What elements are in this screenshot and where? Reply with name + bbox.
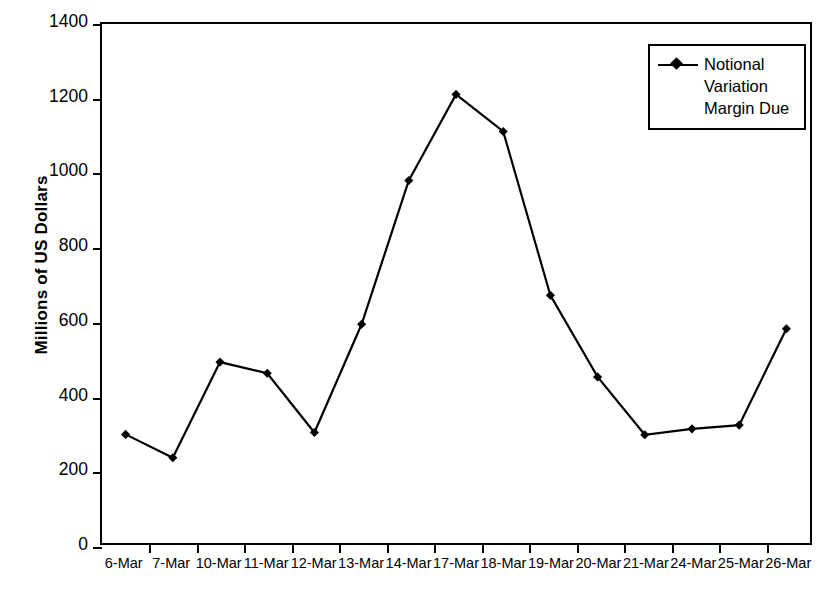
y-axis-tick-mark (93, 323, 102, 325)
y-axis-tick-mark (93, 99, 102, 101)
x-axis-tick-mark (149, 543, 151, 553)
y-axis-tick-label: 200 (30, 462, 88, 480)
x-axis-tick-mark (577, 543, 579, 553)
x-axis-tick-mark (292, 543, 294, 553)
x-axis-tick-label: 26-Mar (753, 556, 823, 571)
x-axis-tick-mark (244, 543, 246, 553)
x-axis-tick-mark (767, 543, 769, 553)
data-point-marker (546, 291, 555, 300)
x-axis-tick-mark (529, 543, 531, 553)
x-axis-tick-mark (482, 543, 484, 553)
legend-line-diamond-icon (658, 55, 698, 75)
data-point-marker (687, 424, 696, 433)
x-axis-tick-mark (339, 543, 341, 553)
x-axis-tick-mark (624, 543, 626, 553)
legend-entry-label: Notional Variation Margin Due (704, 54, 789, 119)
x-axis-tick-labels: 6-Mar7-Mar10-Mar11-Mar12-Mar13-Mar14-Mar… (100, 556, 812, 586)
x-axis-tick-mark (672, 543, 674, 553)
y-axis-tick-mark (93, 398, 102, 400)
data-point-marker (404, 176, 413, 185)
y-axis-tick-label: 400 (30, 387, 88, 405)
y-axis-tick-mark (93, 24, 102, 26)
series-markers (121, 90, 791, 462)
series-line (126, 94, 787, 457)
y-axis-tick-label: 1000 (30, 163, 88, 181)
x-axis-tick-mark (387, 543, 389, 553)
line-chart: Millions of US Dollars 02004006008001000… (0, 0, 828, 590)
y-axis-tick-label: 0 (30, 536, 88, 554)
x-axis-tick-mark (434, 543, 436, 553)
chart-legend: Notional Variation Margin Due (648, 44, 806, 130)
data-point-marker (357, 320, 366, 329)
y-axis-tick-label: 1200 (30, 88, 88, 106)
y-axis-tick-mark (93, 173, 102, 175)
x-axis-tick-mark (719, 543, 721, 553)
y-axis-tick-mark (93, 248, 102, 250)
data-point-marker (735, 421, 744, 430)
data-point-marker (782, 324, 791, 333)
y-axis-tick-label: 800 (30, 237, 88, 255)
data-point-marker (121, 430, 130, 439)
x-axis-tick-mark (197, 543, 199, 553)
y-axis-tick-mark (93, 472, 102, 474)
y-axis-tick-mark (93, 547, 102, 549)
y-axis-tick-label: 600 (30, 312, 88, 330)
data-point-marker (215, 358, 224, 367)
y-axis-tick-label: 1400 (30, 13, 88, 31)
y-axis-tick-labels: 0200400600800100012001400 (30, 0, 88, 590)
data-point-marker (168, 453, 177, 462)
